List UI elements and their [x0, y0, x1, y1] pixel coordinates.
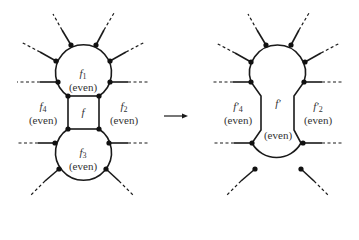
face-label-f2-prime: f′2 (even)	[304, 101, 332, 126]
face-label-f3: f3 (even)	[69, 147, 97, 172]
face-label-f2: f2 (even)	[110, 101, 138, 126]
face-label-f4: f4 (even)	[29, 101, 57, 126]
face-label-f: f	[81, 107, 84, 118]
face-label-f1: f1 (even)	[69, 68, 97, 93]
face-label-f-prime: f′	[275, 98, 280, 109]
transform-arrow	[164, 114, 188, 119]
face-label-f-prime-parity: (even)	[264, 130, 292, 141]
face-label-f4-prime: f′4 (even)	[224, 101, 252, 126]
